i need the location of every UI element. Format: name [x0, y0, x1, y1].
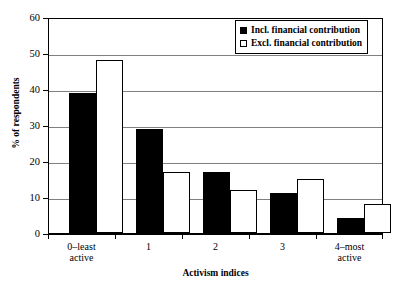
legend-swatch-empty-white-square-icon	[240, 40, 247, 47]
bar-excl-2	[230, 190, 257, 233]
bar-excl-0	[96, 60, 123, 233]
x-axis-title: Activism indices	[48, 268, 383, 278]
bar-incl-4	[337, 218, 364, 233]
x-category-label-0: 0–least active	[48, 241, 115, 263]
x-tick-end	[382, 234, 383, 239]
y-tick-label-60: 60	[0, 13, 40, 23]
x-tick-start	[48, 234, 49, 239]
x-category-label-3: 3	[249, 241, 316, 252]
bar-chart: Incl. financial contribution Excl. finan…	[0, 0, 401, 292]
legend-swatch-filled-black-square-icon	[240, 27, 247, 34]
bar-excl-4	[364, 204, 391, 233]
x-category-label-2: 2	[182, 241, 249, 252]
legend: Incl. financial contribution Excl. finan…	[235, 20, 368, 54]
y-tick-label-10: 10	[0, 193, 40, 203]
x-category-label-4: 4–most active	[316, 241, 383, 263]
bar-incl-0	[69, 93, 96, 233]
x-axis-line	[48, 234, 383, 235]
bar-excl-3	[297, 179, 324, 233]
x-tick-0	[115, 234, 116, 239]
bar-incl-3	[270, 193, 297, 233]
legend-item-incl: Incl. financial contribution	[240, 24, 362, 37]
gridline-50	[49, 55, 382, 56]
x-tick-2	[249, 234, 250, 239]
y-tick-50	[43, 54, 48, 55]
bar-incl-2	[203, 172, 230, 233]
x-tick-3	[316, 234, 317, 239]
y-tick-40	[43, 90, 48, 91]
y-tick-10	[43, 198, 48, 199]
x-tick-1	[182, 234, 183, 239]
y-axis-title: % of respondents	[11, 58, 21, 168]
y-axis-line	[48, 18, 49, 234]
x-category-label-1: 1	[115, 241, 182, 252]
legend-label-excl: Excl. financial contribution	[251, 38, 362, 49]
y-tick-30	[43, 126, 48, 127]
y-tick-label-0: 0	[0, 229, 40, 239]
y-tick-20	[43, 162, 48, 163]
bar-incl-1	[136, 129, 163, 233]
legend-label-incl: Incl. financial contribution	[251, 25, 360, 36]
legend-item-excl: Excl. financial contribution	[240, 37, 362, 50]
y-tick-60	[43, 18, 48, 19]
bar-excl-1	[163, 172, 190, 233]
plot-area: Incl. financial contribution Excl. finan…	[48, 18, 383, 234]
